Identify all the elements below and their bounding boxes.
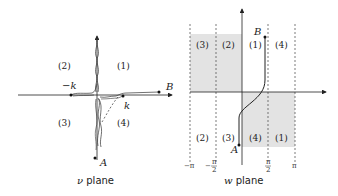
w-A-label: A bbox=[230, 144, 238, 155]
nu-point-neg-k bbox=[70, 94, 73, 97]
w-tick-half-pi-num: π bbox=[266, 158, 271, 166]
nu-k-label: k bbox=[124, 100, 130, 111]
figure-canvas: (2) (1) (3) (4) −k k B A ν plane (3) (2)… bbox=[0, 0, 338, 196]
w-tick-minus-half-pi-sign: − bbox=[205, 162, 211, 170]
nu-neg-k-label: −k bbox=[62, 80, 76, 91]
w-upper-label-2: (2) bbox=[222, 40, 235, 50]
w-upper-label-1: (1) bbox=[249, 40, 262, 50]
w-lower-label-3: (3) bbox=[222, 133, 235, 143]
w-lower-label-4: (4) bbox=[249, 133, 262, 143]
w-upper-label-3: (3) bbox=[196, 40, 209, 50]
w-tick-minus-half-pi-den: 2 bbox=[212, 166, 216, 174]
w-tick-half-pi-den: 2 bbox=[266, 166, 270, 174]
nu-A-label: A bbox=[99, 157, 107, 168]
w-B-label: B bbox=[253, 26, 261, 37]
nu-point-A bbox=[94, 157, 97, 160]
w-point-B bbox=[264, 36, 267, 39]
w-tick-pi: π bbox=[292, 162, 297, 170]
w-tick-half-pi: π 2 bbox=[265, 158, 271, 174]
nu-quadrant-2-label: (2) bbox=[58, 61, 71, 71]
nu-quadrant-4-label: (4) bbox=[117, 118, 130, 128]
nu-plane-text: plane bbox=[83, 175, 114, 186]
nu-dashed-path bbox=[102, 97, 118, 122]
nu-lower-cut-contour bbox=[98, 98, 100, 146]
w-plane-caption: w plane bbox=[224, 175, 264, 186]
w-lower-label-1: (1) bbox=[275, 133, 288, 143]
nu-quadrant-3-label: (3) bbox=[58, 118, 71, 128]
w-upper-label-4: (4) bbox=[275, 40, 288, 50]
w-plane-text: plane bbox=[233, 175, 264, 186]
nu-plane-caption: ν plane bbox=[77, 175, 114, 186]
w-plane-diagram: (3) (2) (1) (4) (2) (3) (4) (1) B A −π −… bbox=[184, 9, 326, 186]
w-tick-minus-half-pi: − π 2 bbox=[205, 158, 217, 174]
w-lower-label-2: (2) bbox=[196, 133, 209, 143]
nu-B-label: B bbox=[165, 81, 173, 92]
nu-quadrant-1-label: (1) bbox=[117, 61, 130, 71]
w-tick-minus-half-pi-num: π bbox=[212, 158, 217, 166]
nu-point-B bbox=[158, 91, 161, 94]
nu-plane-diagram: (2) (1) (3) (4) −k k B A ν plane bbox=[18, 36, 173, 186]
nu-point-k bbox=[122, 95, 125, 98]
w-tick-minus-pi: −π bbox=[184, 162, 195, 170]
